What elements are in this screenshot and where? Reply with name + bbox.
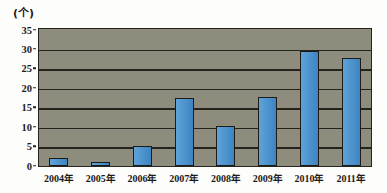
y-tick-mark: [33, 87, 36, 89]
y-tick-mark: [33, 68, 36, 70]
y-axis-unit-label: (个): [13, 7, 34, 21]
y-tick-label: 10: [22, 121, 33, 132]
x-axis: 2004年2005年2006年2007年2008年2009年2010年2011年: [38, 169, 372, 191]
y-tick-mark: [33, 126, 36, 128]
x-tick-label: 2008年: [211, 171, 241, 185]
x-tick-label: 2005年: [86, 171, 116, 185]
gridline: [39, 147, 371, 149]
y-tick-mark: [33, 29, 36, 31]
y-tick-mark: [33, 145, 36, 147]
x-tick-label: 2007年: [169, 171, 199, 185]
bar-chart: (个) 05101520253035 2004年2005年2006年2007年2…: [0, 0, 387, 193]
gridline: [39, 108, 371, 110]
y-tick-label: 5: [27, 141, 32, 152]
x-tick-label: 2006年: [127, 171, 157, 185]
gridline: [39, 89, 371, 91]
gridlines: [39, 29, 371, 166]
x-tick-label: 2011年: [336, 171, 365, 185]
y-tick-mark: [33, 48, 36, 50]
gridline: [39, 50, 371, 52]
y-tick-label: 30: [22, 43, 33, 54]
y-tick-label: 20: [22, 82, 33, 93]
y-tick-mark: [33, 106, 36, 108]
y-tick-label: 0: [27, 160, 32, 171]
x-tick-label: 2004年: [44, 171, 74, 185]
y-tick-mark: [33, 165, 36, 167]
plot-area: [38, 28, 372, 167]
gridline: [39, 69, 371, 71]
gridline: [39, 128, 371, 130]
x-tick-label: 2009年: [253, 171, 283, 185]
y-tick-label: 25: [22, 63, 33, 74]
y-tick-label: 15: [22, 102, 33, 113]
y-axis: 05101520253035: [0, 28, 36, 167]
y-tick-label: 35: [22, 24, 33, 35]
x-tick-label: 2010年: [294, 171, 324, 185]
